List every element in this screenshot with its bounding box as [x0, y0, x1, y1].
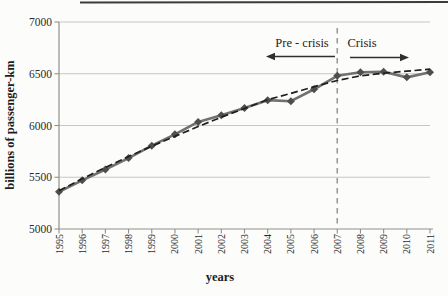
y-axis-title: billions of passenger-km: [3, 60, 17, 190]
x-tick-label: 2007: [332, 234, 343, 254]
passenger-series-line: [59, 72, 430, 192]
pre-crisis-label: Pre - crisis: [275, 36, 329, 50]
arrowhead-right-icon: [400, 54, 409, 61]
y-tick-label: 6500: [29, 68, 52, 80]
x-tick-label: 2000: [169, 234, 180, 254]
x-tick-label: 1997: [100, 234, 111, 254]
data-point-marker: [380, 68, 388, 76]
x-tick-label: 2003: [239, 234, 250, 254]
y-tick-label: 5000: [29, 223, 52, 235]
data-point-marker: [217, 111, 225, 119]
x-tick-label: 2011: [425, 234, 436, 254]
data-point-marker: [403, 73, 411, 81]
trend-dashed-line: [59, 69, 430, 191]
x-tick-label: 2004: [262, 234, 273, 254]
x-tick-label: 1995: [54, 234, 65, 254]
x-tick-label: 2006: [309, 234, 320, 254]
x-tick-label: 1998: [123, 234, 134, 254]
arrowhead-left-icon: [266, 53, 275, 60]
x-tick-label: 1999: [146, 234, 157, 254]
x-tick-label: 2005: [285, 234, 296, 254]
x-tick-label: 2009: [378, 234, 389, 254]
crisis-label: Crisis: [347, 36, 376, 50]
y-tick-label: 5500: [29, 171, 52, 183]
x-tick-label: 2010: [401, 234, 412, 254]
x-tick-label: 2001: [193, 234, 204, 254]
pre-crisis-arrow: [266, 53, 335, 60]
scanned-chart-figure: 5000550060006500700019951996199719981999…: [0, 0, 448, 296]
x-axis-title: years: [206, 270, 235, 284]
x-tick-label: 2002: [216, 234, 227, 254]
axes-layer: 5000550060006500700019951996199719981999…: [29, 16, 436, 254]
x-tick-label: 1996: [77, 234, 88, 254]
x-tick-label: 2008: [355, 234, 366, 254]
y-tick-label: 7000: [29, 16, 52, 28]
page-top-border-line: [80, 2, 448, 3]
crisis-arrow: [350, 54, 409, 61]
y-tick-label: 6000: [29, 120, 52, 132]
